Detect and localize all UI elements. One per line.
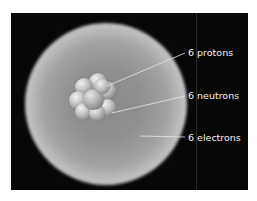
electrons-label: 6 electrons <box>188 132 241 143</box>
protons-label: 6 protons <box>188 47 233 58</box>
neutrons-leader-line <box>112 96 185 113</box>
protons-leader-line <box>107 53 185 86</box>
electrons-leader-line <box>140 136 185 137</box>
neutrons-label: 6 neutrons <box>188 90 239 101</box>
